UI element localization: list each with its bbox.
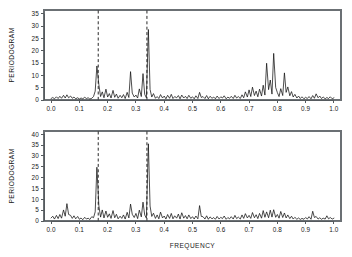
periodogram-plot-bottom: 05101520253035400.00.10.20.30.40.50.60.7… xyxy=(0,125,352,257)
plot-frame xyxy=(44,131,341,221)
y-axis-tick-label: 0 xyxy=(35,96,39,103)
y-axis-tick-label: 35 xyxy=(31,10,39,17)
x-axis-tick-label: 0.8 xyxy=(273,226,283,233)
periodogram-plot-top: 051015202530350.00.10.20.30.40.50.60.70.… xyxy=(0,0,352,125)
x-axis-tick-label: 0.7 xyxy=(244,226,254,233)
x-axis-tick-label: 1.0 xyxy=(329,226,339,233)
x-axis-tick-label: 0.5 xyxy=(188,226,198,233)
y-axis-tick-label: 25 xyxy=(31,35,39,42)
plot-frame xyxy=(44,10,341,100)
x-axis-tick-label: 0.9 xyxy=(301,105,311,112)
y-axis-tick-label: 15 xyxy=(31,59,39,66)
y-axis-tick-label: 5 xyxy=(35,84,39,91)
x-axis-tick-label: 0.4 xyxy=(160,105,170,112)
x-axis-tick-label: 0.9 xyxy=(301,226,311,233)
periodogram-figure: 051015202530350.00.10.20.30.40.50.60.70.… xyxy=(0,0,352,257)
y-axis-tick-label: 10 xyxy=(31,196,39,203)
periodogram-panel-bottom: 05101520253035400.00.10.20.30.40.50.60.7… xyxy=(0,125,352,257)
x-axis-tick-label: 0.6 xyxy=(216,226,226,233)
y-axis-title: PERIODOGRAM xyxy=(8,27,15,82)
x-axis-tick-label: 0.8 xyxy=(273,105,283,112)
y-axis-tick-label: 10 xyxy=(31,72,39,79)
x-axis-tick-label: 0.4 xyxy=(160,226,170,233)
y-axis-tick-label: 5 xyxy=(35,206,39,213)
x-axis-tick-label: 1.0 xyxy=(329,105,339,112)
y-axis-tick-label: 30 xyxy=(31,22,39,29)
y-axis-tick-label: 40 xyxy=(31,131,39,138)
x-axis-tick-label: 0.3 xyxy=(131,226,141,233)
y-axis-tick-label: 35 xyxy=(31,141,39,148)
x-axis-tick-label: 0.1 xyxy=(75,105,85,112)
x-axis-tick-label: 0.6 xyxy=(216,105,226,112)
x-axis-tick-label: 0.1 xyxy=(75,226,85,233)
y-axis-tick-label: 20 xyxy=(31,47,39,54)
x-axis-tick-label: 0.2 xyxy=(103,105,113,112)
y-axis-tick-label: 15 xyxy=(31,185,39,192)
periodogram-series xyxy=(51,29,334,99)
y-axis-tick-label: 30 xyxy=(31,152,39,159)
y-axis-title: PERIODOGRAM xyxy=(8,148,15,203)
x-axis-tick-label: 0.0 xyxy=(46,226,56,233)
x-axis-tick-label: 0.3 xyxy=(131,105,141,112)
y-axis-tick-label: 25 xyxy=(31,163,39,170)
periodogram-panel-top: 051015202530350.00.10.20.30.40.50.60.70.… xyxy=(0,0,352,125)
x-axis-tick-label: 0.2 xyxy=(103,226,113,233)
x-axis-title: FREQUENCY xyxy=(170,242,216,250)
y-axis-tick-label: 20 xyxy=(31,174,39,181)
x-axis-tick-label: 0.7 xyxy=(244,105,254,112)
x-axis-tick-label: 0.0 xyxy=(46,105,56,112)
y-axis-tick-label: 0 xyxy=(35,217,39,224)
x-axis-tick-label: 0.5 xyxy=(188,105,198,112)
periodogram-series xyxy=(51,144,334,220)
